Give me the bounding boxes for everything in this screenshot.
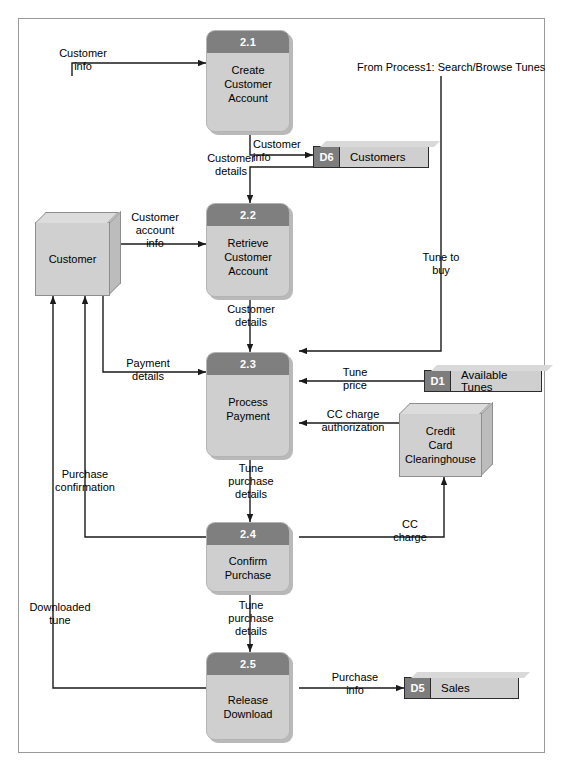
datastore-d6-name: Customers xyxy=(340,147,428,167)
flow-label-tune-purchase-details-25: Tune purchase details xyxy=(220,599,282,638)
process-2-1[interactable]: 2.1 Create Customer Account xyxy=(206,30,290,132)
process-2-3-name: Process Payment xyxy=(207,375,289,435)
entity-credit-card-clearinghouse[interactable]: Credit Card Clearinghouse xyxy=(399,413,482,477)
entity-customer-top-face xyxy=(35,212,119,223)
diagram-canvas: 2.1 Create Customer Account 2.2 Retrieve… xyxy=(0,0,562,780)
flow-label-customer-details-23: Customer details xyxy=(217,303,285,329)
note-from-process1: From Process1: Search/Browse Tunes xyxy=(357,61,547,74)
process-2-2[interactable]: 2.2 Retrieve Customer Account xyxy=(206,203,290,297)
datastore-d1-name: Available Tunes xyxy=(451,371,541,391)
process-2-3-id: 2.3 xyxy=(207,353,289,375)
process-2-5-name: Release Download xyxy=(207,675,289,733)
datastore-d5-shadow xyxy=(411,672,530,678)
process-2-1-id: 2.1 xyxy=(207,31,289,53)
entity-cc-side-face xyxy=(482,402,493,475)
datastore-d6[interactable]: D6 Customers xyxy=(313,146,429,168)
process-2-5-id: 2.5 xyxy=(207,653,289,675)
datastore-d5[interactable]: D5 Sales xyxy=(404,677,519,699)
process-2-4-id: 2.4 xyxy=(207,523,289,545)
process-2-4[interactable]: 2.4 Confirm Purchase xyxy=(206,522,290,592)
flow-label-customer-info-in: Customer info xyxy=(48,47,118,73)
process-2-1-name: Create Customer Account xyxy=(207,53,289,117)
datastore-d5-id: D5 xyxy=(405,678,431,698)
process-2-3[interactable]: 2.3 Process Payment xyxy=(206,352,290,457)
flow-label-tune-price: Tune price xyxy=(325,366,385,392)
datastore-d6-shadow xyxy=(320,141,440,147)
datastore-d1-id: D1 xyxy=(425,371,451,391)
flow-label-tune-purchase-details-24: Tune purchase details xyxy=(220,462,282,501)
flow-label-cc-charge: CC charge xyxy=(381,518,439,544)
entity-cc-top-face xyxy=(399,403,491,414)
datastore-d6-id: D6 xyxy=(314,147,340,167)
flow-label-cc-charge-auth: CC charge authorization xyxy=(305,408,401,434)
flow-label-customer-details-d6: Customer details xyxy=(197,152,265,178)
flow-label-payment-details: Payment details xyxy=(113,357,183,383)
entity-customer-label: Customer xyxy=(49,252,97,266)
datastore-d1-shadow xyxy=(431,365,553,371)
process-2-2-name: Retrieve Customer Account xyxy=(207,226,289,290)
flow-label-tune-to-buy: Tune to buy xyxy=(410,251,472,277)
flow-label-purchase-info: Purchase info xyxy=(317,671,393,697)
flow-label-customer-account-info: Customer account info xyxy=(113,211,197,250)
datastore-d1[interactable]: D1 Available Tunes xyxy=(424,370,542,392)
flow-line-tune-to-buy xyxy=(299,76,441,351)
datastore-d5-name: Sales xyxy=(431,678,518,698)
entity-credit-card-clearinghouse-label: Credit Card Clearinghouse xyxy=(405,424,476,466)
process-2-4-name: Confirm Purchase xyxy=(207,545,289,594)
entity-customer[interactable]: Customer xyxy=(35,222,110,296)
process-2-2-id: 2.2 xyxy=(207,204,289,226)
flow-label-downloaded-tune: Downloaded tune xyxy=(15,601,105,627)
process-2-5[interactable]: 2.5 Release Download xyxy=(206,652,290,740)
flow-label-purchase-confirmation: Purchase confirmation xyxy=(38,468,132,494)
